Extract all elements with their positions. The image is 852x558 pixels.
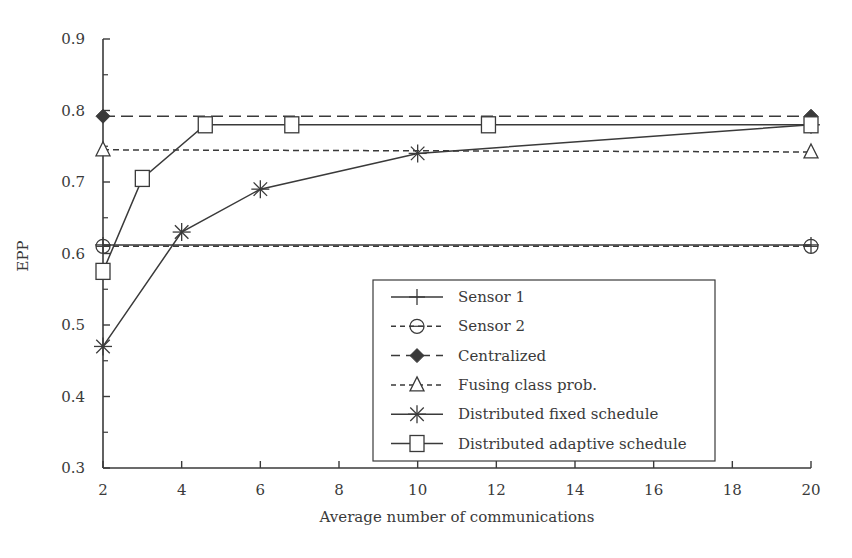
asterisk-marker-icon xyxy=(251,180,269,198)
legend-label: Distributed fixed schedule xyxy=(458,405,658,423)
y-tick-label: 0.9 xyxy=(61,30,85,48)
square-marker-icon xyxy=(285,117,299,133)
x-axis-title: Average number of communications xyxy=(319,508,595,526)
y-tick-label: 0.4 xyxy=(61,388,85,406)
x-tick-label: 14 xyxy=(565,481,584,499)
x-tick-label: 6 xyxy=(256,481,266,499)
series-sensor-2 xyxy=(96,239,818,253)
y-axis-title: EPP xyxy=(14,240,32,271)
square-marker-icon xyxy=(198,117,212,133)
epp-line-chart: 0.30.40.50.60.70.80.92468101214161820 Se… xyxy=(0,0,852,558)
diamond-marker-icon xyxy=(96,109,110,123)
square-marker-icon xyxy=(135,170,149,186)
legend-label: Sensor 1 xyxy=(458,288,525,306)
asterisk-marker-icon xyxy=(408,405,426,423)
legend-label: Centralized xyxy=(458,347,547,365)
square-marker-icon xyxy=(804,117,818,133)
legend-label: Distributed adaptive schedule xyxy=(458,435,687,453)
x-tick-label: 10 xyxy=(408,481,427,499)
asterisk-marker-icon xyxy=(94,337,112,355)
series-sensor-1 xyxy=(95,237,819,253)
triangle-marker-icon xyxy=(804,144,818,158)
square-marker-icon xyxy=(96,263,110,279)
asterisk-marker-icon xyxy=(173,223,191,241)
y-tick-label: 0.3 xyxy=(61,459,85,477)
y-tick-label: 0.8 xyxy=(61,102,85,120)
asterisk-marker-icon xyxy=(409,144,427,162)
legend-label: Fusing class prob. xyxy=(458,376,597,394)
square-marker-icon xyxy=(481,117,495,133)
x-tick-label: 16 xyxy=(644,481,663,499)
y-tick-label: 0.7 xyxy=(61,173,85,191)
legend-label: Sensor 2 xyxy=(458,317,525,335)
x-tick-label: 4 xyxy=(177,481,187,499)
y-tick-label: 0.6 xyxy=(61,245,85,263)
x-tick-label: 18 xyxy=(723,481,742,499)
triangle-marker-icon xyxy=(96,142,110,156)
y-tick-label: 0.5 xyxy=(61,316,85,334)
x-tick-label: 20 xyxy=(801,481,820,499)
legend: Sensor 1Sensor 2CentralizedFusing class … xyxy=(373,280,715,461)
x-tick-label: 8 xyxy=(334,481,344,499)
x-tick-label: 12 xyxy=(487,481,506,499)
series-distributed-adaptive-schedule xyxy=(96,117,818,280)
x-tick-label: 2 xyxy=(98,481,108,499)
square-marker-icon xyxy=(410,436,424,452)
